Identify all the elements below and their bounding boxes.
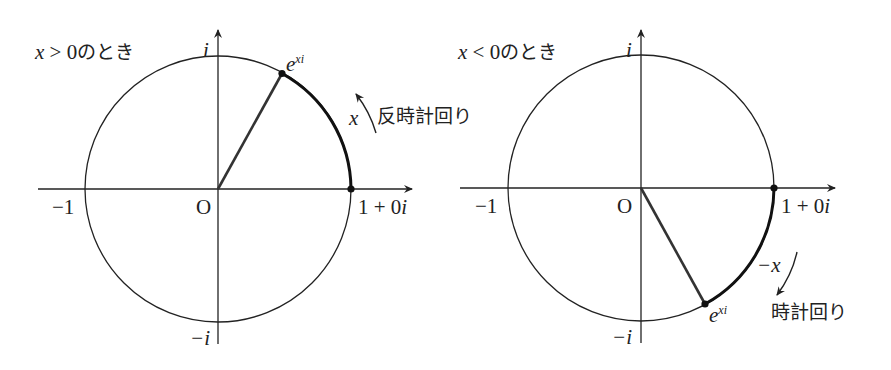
right-condition-suffix: のとき bbox=[500, 41, 557, 63]
right-radius bbox=[641, 188, 705, 304]
right-direction-label: 時計回り bbox=[771, 303, 847, 322]
left-direction-label: 反時計回り bbox=[377, 107, 472, 126]
right-label-one-imag: i bbox=[824, 194, 830, 218]
left-ccw-arrow-icon bbox=[356, 94, 376, 133]
left-label-neg-i: −i bbox=[190, 328, 210, 349]
left-label-one-imag: i bbox=[401, 195, 407, 219]
left-label-exi: exi bbox=[286, 53, 304, 75]
left-label-one: 1 + 0i bbox=[358, 197, 407, 218]
right-label-one-real: 1 + 0 bbox=[781, 194, 824, 218]
left-condition-suffix: のとき bbox=[77, 41, 134, 63]
left-condition-label: x > 0のとき bbox=[35, 42, 134, 63]
right-condition-var: x bbox=[458, 40, 467, 64]
right-label-neg-i: −i bbox=[612, 327, 632, 348]
right-exi-base: e bbox=[709, 303, 718, 327]
right-label-exi: exi bbox=[709, 304, 727, 326]
right-exi-exp: xi bbox=[718, 303, 727, 317]
right-condition-label: x < 0のとき bbox=[458, 42, 557, 63]
right-label-origin: O bbox=[617, 196, 632, 217]
left-label-one-real: 1 + 0 bbox=[358, 195, 401, 219]
left-condition-var: x bbox=[35, 40, 44, 64]
left-arc-label: x bbox=[349, 108, 358, 129]
left-label-neg-one: −1 bbox=[52, 197, 74, 218]
right-arc-label: −x bbox=[757, 255, 781, 276]
right-label-i: i bbox=[626, 40, 632, 61]
right-label-one: 1 + 0i bbox=[781, 196, 830, 217]
left-label-origin: O bbox=[196, 197, 211, 218]
right-angle-arc bbox=[705, 188, 774, 304]
left-point-one bbox=[347, 185, 354, 192]
left-label-i: i bbox=[203, 40, 209, 61]
left-point-exi bbox=[278, 70, 285, 77]
right-condition-op: < 0 bbox=[467, 40, 500, 64]
right-diagram bbox=[460, 30, 835, 343]
right-label-neg-one: −1 bbox=[475, 196, 497, 217]
left-condition-op: > 0 bbox=[44, 40, 77, 64]
left-diagram bbox=[38, 30, 412, 344]
left-exi-base: e bbox=[286, 52, 295, 76]
left-exi-exp: xi bbox=[295, 52, 304, 66]
left-radius bbox=[218, 74, 282, 190]
right-point-one bbox=[770, 184, 777, 191]
left-angle-arc bbox=[282, 74, 351, 190]
right-point-exi bbox=[701, 300, 708, 307]
